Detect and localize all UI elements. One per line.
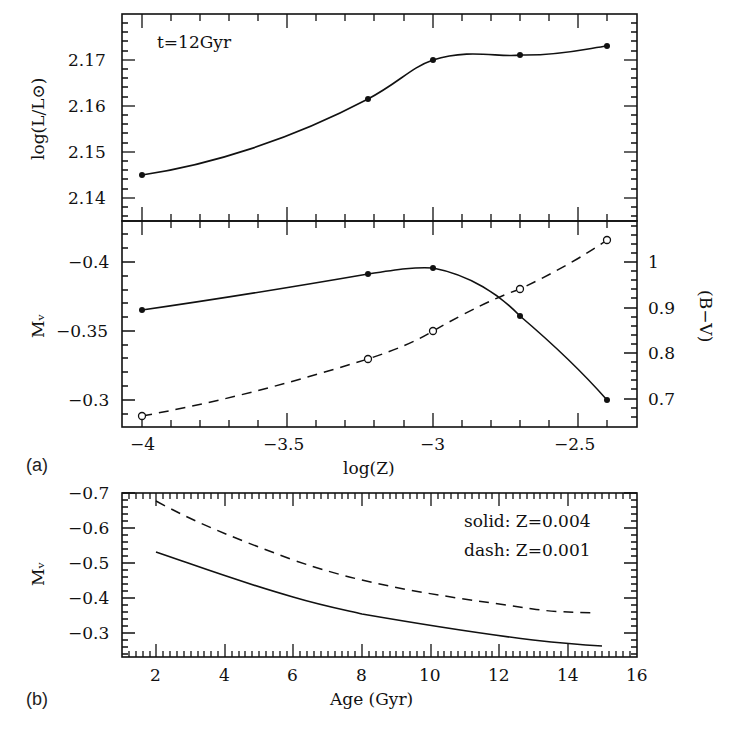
- mid-ytick-label: −0.4: [68, 252, 109, 272]
- bot-xtick-label: 4: [219, 665, 230, 685]
- mid-ytick-label: −0.35: [56, 321, 108, 341]
- bottom-y-tick-labels: −0.7 −0.6 −0.5 −0.4 −0.3: [68, 483, 109, 643]
- bot-ytick-label: −0.5: [68, 553, 109, 573]
- bot-ytick-label: −0.7: [68, 483, 109, 503]
- bv-markers: [139, 237, 611, 420]
- bottom-x-tick-labels: 2 4 6 8 10 12 14 16: [150, 665, 648, 685]
- mid-xtick-label: −3: [420, 434, 445, 454]
- legend-dash: dash: Z=0.001: [464, 540, 591, 560]
- legend-solid: solid: Z=0.004: [464, 511, 591, 531]
- bot-xtick-label: 2: [150, 665, 161, 685]
- mid-xtick-label: −3.5: [263, 434, 304, 454]
- mid-xtick-label: −2.5: [554, 434, 595, 454]
- mid-right-tick-label: 1: [648, 252, 659, 272]
- top-ytick-label: 2.16: [68, 96, 106, 116]
- bot-xtick-label: 14: [557, 665, 579, 685]
- middle-y-ticks-right: [624, 226, 637, 417]
- bot-xtick-label: 12: [488, 665, 510, 685]
- mid-x-axis-label: log(Z): [343, 458, 395, 478]
- bot-ytick-label: −0.4: [68, 588, 109, 608]
- mid-right-tick-label: 0.9: [648, 298, 675, 318]
- luminosity-curve: [142, 46, 607, 175]
- bot-xtick-label: 8: [356, 665, 367, 685]
- middle-panel: −0.4 −0.35 −0.3 1 0.9 0.8 0.7 −4 −3.5 −3…: [26, 221, 716, 478]
- middle-y-tick-labels: −0.4 −0.35 −0.3: [56, 252, 109, 410]
- top-y-axis-label: log(L/L⊙): [28, 78, 48, 160]
- mv-markers: [139, 265, 610, 403]
- middle-x-ticks: [142, 413, 607, 427]
- bv-curve: [142, 240, 607, 416]
- bot-xtick-label: 10: [419, 665, 441, 685]
- mid-y-axis-label: Mᵥ: [28, 314, 48, 338]
- middle-y-tick-labels-right: 1 0.9 0.8 0.7: [648, 252, 675, 409]
- bot-x-axis-label: Age (Gyr): [329, 689, 413, 709]
- top-panel: 2.17 2.16 2.15 2.14 log(L/L⊙) t=12Gyr: [28, 14, 637, 235]
- panel-label-b: (b): [26, 689, 48, 709]
- mid-right-tick-label: 0.7: [648, 389, 675, 409]
- z004-curve: [156, 552, 602, 646]
- top-y-tick-labels: 2.17 2.16 2.15 2.14: [68, 50, 106, 208]
- panel-label-a: (a): [26, 455, 48, 475]
- mid-right-axis-label: (B−V): [696, 290, 716, 342]
- bot-xtick-label: 16: [626, 665, 648, 685]
- age-annotation: t=12Gyr: [157, 32, 232, 52]
- luminosity-markers: [139, 43, 610, 178]
- mid-xtick-label: −4: [130, 434, 155, 454]
- mv-curve: [142, 268, 607, 400]
- bot-xtick-label: 6: [287, 665, 298, 685]
- bottom-panel: −0.7 −0.6 −0.5 −0.4 −0.3 2 4 6 8 10 12 1…: [26, 483, 648, 709]
- middle-y-ticks-left: [122, 234, 135, 414]
- top-ytick-label: 2.17: [68, 50, 106, 70]
- middle-plot-frame: [122, 221, 637, 427]
- bot-ytick-label: −0.3: [68, 623, 109, 643]
- top-ytick-label: 2.15: [68, 142, 106, 162]
- bot-ytick-label: −0.6: [68, 518, 109, 538]
- middle-x-tick-labels: −4 −3.5 −3 −2.5: [130, 434, 595, 454]
- bot-y-axis-label: Mᵥ: [28, 562, 48, 586]
- mid-right-tick-label: 0.8: [648, 343, 675, 363]
- mid-ytick-label: −0.3: [68, 390, 109, 410]
- top-ytick-label: 2.14: [68, 188, 106, 208]
- figure: 2.17 2.16 2.15 2.14 log(L/L⊙) t=12Gyr: [0, 0, 729, 738]
